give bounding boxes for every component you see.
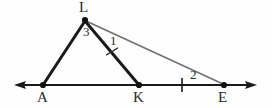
vertex-dot-E	[221, 82, 227, 88]
vertex-dot-L	[82, 17, 88, 23]
vertex-label-L: L	[79, 0, 88, 15]
angle-label-3: 3	[83, 25, 90, 38]
angle-label-1: 1	[110, 34, 117, 47]
segment-L-K	[85, 21, 139, 85]
vertex-label-K: K	[133, 90, 144, 105]
segment-L-E	[86, 21, 223, 84]
vertex-dot-K	[136, 82, 142, 88]
vertex-label-A: A	[37, 90, 48, 105]
angle-label-2: 2	[190, 68, 197, 81]
vertex-label-E: E	[218, 90, 227, 105]
vertex-dot-A	[40, 82, 46, 88]
segment-L-A	[43, 21, 85, 85]
geometry-figure: L A K E 3 1 2	[0, 0, 272, 108]
